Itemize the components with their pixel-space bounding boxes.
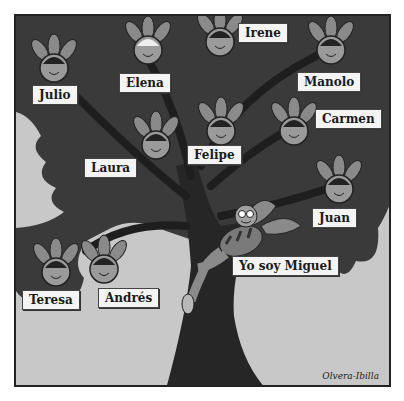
artist-signature: Olvera-Ibilla [322, 371, 379, 381]
label-juan: Juan [312, 208, 357, 228]
label-julio: Julio [32, 85, 78, 105]
label-carmen: Carmen [315, 109, 382, 129]
label-elena: Elena [119, 73, 171, 93]
label-irene: Irene [238, 23, 288, 43]
family-tree-illustration: JulioElenaIreneManoloCarmenLauraFelipeJu… [14, 14, 391, 387]
label-laura: Laura [84, 158, 137, 178]
label-andrés: Andrés [98, 288, 159, 308]
label-manolo: Manolo [297, 72, 361, 92]
label-felipe: Felipe [187, 145, 242, 165]
label-teresa: Teresa [22, 290, 80, 310]
miguel-label: Yo soy Miguel [232, 256, 339, 276]
